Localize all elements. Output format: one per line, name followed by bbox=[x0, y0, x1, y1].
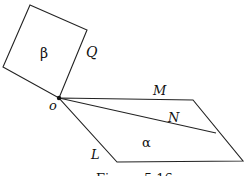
label-m: M bbox=[152, 83, 167, 98]
label-beta: β bbox=[40, 45, 48, 61]
line-n bbox=[59, 98, 216, 133]
label-q: Q bbox=[86, 44, 98, 60]
label-n: N bbox=[167, 110, 180, 125]
label-l: L bbox=[90, 147, 100, 162]
figure-caption: Figure 5.16 bbox=[96, 171, 173, 176]
label-o: o bbox=[49, 98, 57, 113]
geometry-diagram: β Q o M N α L Figure 5.16 bbox=[0, 0, 245, 176]
point-o bbox=[57, 96, 61, 100]
plane-alpha bbox=[59, 98, 243, 162]
label-alpha: α bbox=[142, 135, 151, 150]
